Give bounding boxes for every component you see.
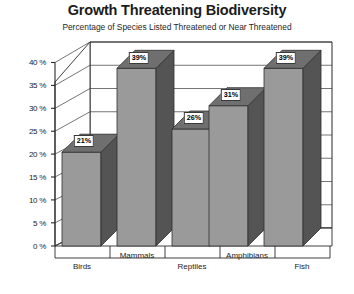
chart-plot-area bbox=[0, 0, 354, 294]
x-label-reptiles: Reptiles bbox=[178, 262, 207, 271]
y-tick-label-0: 0 % bbox=[16, 242, 46, 251]
y-tick-label-15: 15 % bbox=[16, 173, 46, 182]
value-label-mammals: 39% bbox=[129, 52, 149, 64]
value-label-amphibians: 31% bbox=[221, 89, 241, 101]
x-axis-ticks bbox=[55, 246, 330, 258]
bar-fish bbox=[264, 50, 321, 246]
x-label-amphibians: Amphibians bbox=[226, 251, 268, 260]
x-label-birds: Birds bbox=[73, 262, 91, 271]
value-label-birds: 21% bbox=[74, 135, 94, 147]
x-label-mammals: Mammals bbox=[120, 251, 155, 260]
y-tick-label-20: 20 % bbox=[16, 150, 46, 159]
y-tick-label-5: 5 % bbox=[16, 219, 46, 228]
y-tick-label-40: 40 % bbox=[16, 58, 46, 67]
bar-mammals bbox=[117, 50, 174, 246]
y-axis bbox=[51, 63, 55, 247]
x-label-fish: Fish bbox=[294, 262, 309, 271]
y-tick-label-35: 35 % bbox=[16, 81, 46, 90]
chart-container: Growth Threatening Biodiversity Percenta… bbox=[0, 0, 354, 294]
bar-amphibians bbox=[209, 88, 266, 246]
y-tick-label-25: 25 % bbox=[16, 127, 46, 136]
y-tick-label-30: 30 % bbox=[16, 104, 46, 113]
value-label-fish: 39% bbox=[276, 52, 296, 64]
bar-birds bbox=[62, 134, 119, 246]
y-tick-label-10: 10 % bbox=[16, 196, 46, 205]
value-label-reptiles: 26% bbox=[184, 112, 204, 124]
